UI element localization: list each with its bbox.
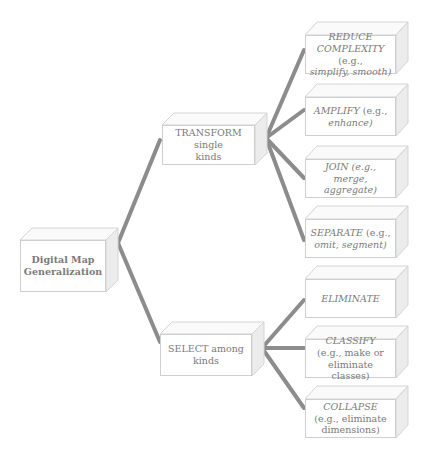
select-label-line2: kinds (168, 355, 244, 367)
transform-label-line2: kinds (166, 151, 251, 163)
separate-detail2: omit, segment) (310, 239, 390, 251)
root-label-line2: Generalization (24, 266, 102, 278)
node-amplify: AMPLIFY (e.g., enhance) (305, 84, 408, 136)
transform-label-line1: TRANSFORM single (166, 127, 251, 151)
collapse-detail: (e.g., eliminate (314, 413, 386, 425)
connector-root-transform (118, 140, 160, 243)
reduce-detail2: simplify, smooth) (309, 66, 392, 78)
join-keyword: JOIN (325, 161, 349, 172)
separate-keyword: SEPARATE (310, 227, 363, 238)
node-eliminate: ELIMINATE (305, 266, 408, 318)
complexity-keyword: COMPLEXITY (317, 43, 385, 54)
node-transform-single-kinds: TRANSFORM single kinds (162, 113, 267, 165)
connector-transform-separate (266, 138, 304, 240)
node-reduce-complexity: REDUCE COMPLEXITY (e.g., simplify, smoot… (305, 22, 408, 74)
classify-detail: (e.g., make or (309, 347, 392, 359)
classify-keyword: CLASSIFY (309, 335, 392, 347)
collapse-detail2: dimensions) (314, 424, 386, 436)
root-label-line1: Digital Map (24, 254, 102, 266)
node-collapse: COLLAPSE (e.g., eliminate dimensions) (305, 386, 408, 438)
amplify-keyword: AMPLIFY (314, 105, 360, 116)
node-digital-map-generalization: Digital Map Generalization (20, 228, 118, 292)
classify-detail2: eliminate classes) (309, 359, 392, 383)
join-detail2: aggregate) (309, 184, 392, 196)
connector-select-eliminate (262, 300, 304, 348)
amplify-detail: (e.g., (363, 105, 387, 116)
amplify-detail2: enhance) (314, 117, 387, 129)
collapse-keyword: COLLAPSE (314, 401, 386, 413)
connector-select-collapse (262, 348, 304, 408)
connector-root-select (118, 243, 160, 342)
reduce-keyword: REDUCE (309, 31, 392, 43)
separate-detail: (e.g., (366, 227, 390, 238)
node-classify: CLASSIFY (e.g., make or eliminate classe… (305, 326, 408, 378)
node-select-among-kinds: SELECT among kinds (160, 322, 264, 376)
eliminate-keyword: ELIMINATE (321, 293, 379, 305)
select-label-line1: SELECT among (168, 343, 244, 355)
reduce-detail: (e.g., (338, 55, 362, 66)
node-join: JOIN (e.g., merge, aggregate) (305, 146, 408, 198)
node-separate: SEPARATE (e.g., omit, segment) (305, 206, 408, 258)
